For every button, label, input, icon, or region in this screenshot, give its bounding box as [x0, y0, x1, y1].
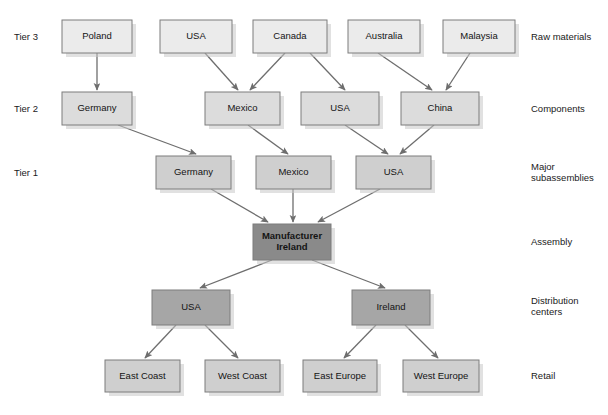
- tier-label-3: Tier 1: [14, 167, 38, 178]
- node-t1-mexico[interactable]: Mexico: [256, 156, 335, 193]
- flow-arrow: [312, 260, 385, 288]
- stage-label-layer: Raw materialsComponentsMajorsubassemblie…: [531, 31, 594, 381]
- tier-label-layer: Tier 3Tier 2Tier 1: [14, 31, 38, 178]
- node-label: USA: [186, 30, 206, 41]
- node-label: West Coast: [218, 370, 267, 381]
- node-label: Malaysia: [460, 30, 498, 41]
- node-label: East Coast: [119, 370, 166, 381]
- flow-arrow: [378, 53, 432, 90]
- flow-arrow: [405, 325, 438, 358]
- node-label: Canada: [273, 30, 307, 41]
- stage-label: Components: [531, 103, 585, 114]
- node-t2-mexico[interactable]: Mexico: [205, 92, 284, 129]
- stage-label: Major: [531, 161, 555, 172]
- tier-label-2: Tier 2: [14, 103, 38, 114]
- stage-label: Raw materials: [531, 31, 591, 42]
- supply-chain-diagram: PolandUSACanadaAustraliaMalaysiaGermanyM…: [0, 0, 608, 415]
- node-label: USA: [181, 301, 201, 312]
- node-label: Australia: [366, 30, 404, 41]
- flow-arrow: [211, 189, 268, 222]
- flow-arrow: [344, 325, 376, 358]
- node-label: West Europe: [414, 370, 469, 381]
- node-label: Germany: [77, 102, 116, 113]
- node-label: Germany: [174, 166, 213, 177]
- flow-arrow: [318, 189, 380, 222]
- node-label: Ireland: [376, 301, 405, 312]
- node-retail-east-europe[interactable]: East Europe: [303, 360, 381, 396]
- node-t3-malaysia[interactable]: Malaysia: [443, 20, 519, 57]
- stage-label: subassemblies: [531, 172, 594, 183]
- flow-arrow: [205, 53, 238, 90]
- node-retail-east-coast[interactable]: East Coast: [105, 360, 184, 396]
- node-label: USA: [330, 102, 350, 113]
- node-t2-usa[interactable]: USA: [301, 92, 383, 129]
- flow-arrow: [205, 325, 238, 358]
- node-dc-usa[interactable]: USA: [152, 290, 234, 329]
- flow-arrow: [118, 125, 196, 154]
- node-label: Mexico: [278, 166, 308, 177]
- diagram-canvas: PolandUSACanadaAustraliaMalaysiaGermanyM…: [0, 0, 608, 415]
- node-dc-ireland[interactable]: Ireland: [352, 290, 434, 329]
- node-t3-canada[interactable]: Canada: [253, 20, 331, 57]
- node-label: East Europe: [314, 370, 366, 381]
- node-label: Poland: [82, 30, 112, 41]
- stage-label: Assembly: [531, 236, 572, 247]
- flow-arrow: [446, 53, 470, 90]
- flow-arrow: [248, 125, 288, 154]
- tier-label-1: Tier 3: [14, 31, 38, 42]
- node-t3-poland[interactable]: Poland: [62, 20, 136, 57]
- node-retail-west-coast[interactable]: West Coast: [205, 360, 284, 396]
- node-t1-usa[interactable]: USA: [356, 156, 435, 193]
- stage-label: Distribution: [531, 295, 579, 306]
- node-label: Ireland: [276, 241, 307, 252]
- flow-arrow: [250, 53, 285, 90]
- node-t3-australia[interactable]: Australia: [348, 20, 424, 57]
- node-label: China: [428, 102, 454, 113]
- node-retail-west-europe[interactable]: West Europe: [403, 360, 483, 396]
- flow-arrow: [400, 125, 434, 154]
- node-t2-germany[interactable]: Germany: [62, 92, 136, 129]
- flow-arrow: [310, 53, 345, 90]
- node-label: Manufacturer: [262, 230, 322, 241]
- node-label: Mexico: [227, 102, 257, 113]
- node-t1-germany[interactable]: Germany: [156, 156, 235, 193]
- node-assembly-ireland[interactable]: ManufacturerIreland: [253, 224, 335, 264]
- node-label: USA: [384, 166, 404, 177]
- node-layer: PolandUSACanadaAustraliaMalaysiaGermanyM…: [62, 20, 519, 396]
- flow-arrow: [345, 125, 388, 154]
- node-t2-china[interactable]: China: [401, 92, 483, 129]
- flow-arrow: [200, 260, 272, 288]
- node-t3-usa[interactable]: USA: [160, 20, 236, 57]
- stage-label: Retail: [531, 370, 555, 381]
- flow-arrow: [145, 325, 176, 358]
- stage-label: centers: [531, 306, 562, 317]
